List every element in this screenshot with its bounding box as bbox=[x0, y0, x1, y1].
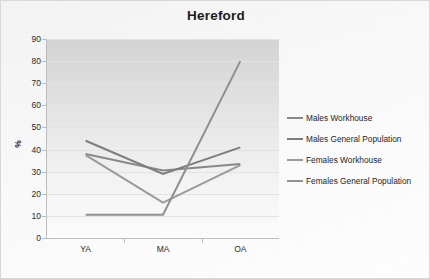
y-axis-tick-mark bbox=[42, 194, 46, 195]
x-axis-tick-mark bbox=[202, 239, 203, 243]
y-axis-tick-mark bbox=[42, 150, 46, 151]
y-axis-tick-label: 10 bbox=[11, 211, 41, 221]
y-axis-tick-mark bbox=[42, 39, 46, 40]
legend-item[interactable]: Males General Population bbox=[287, 130, 429, 148]
y-axis-tick-label: 50 bbox=[11, 122, 41, 132]
y-axis-tick-labels: 9080706050403020100 bbox=[7, 39, 41, 239]
chart-legend: Males WorkhouseMales General PopulationF… bbox=[287, 109, 429, 193]
y-axis-tick-mark bbox=[42, 238, 46, 239]
y-axis-tick-mark bbox=[42, 216, 46, 217]
y-axis-tick-label: 60 bbox=[11, 100, 41, 110]
x-axis-tick-label: OA bbox=[217, 244, 263, 254]
series-line bbox=[86, 154, 241, 171]
x-axis-line bbox=[46, 238, 279, 239]
y-axis-tick-label: 80 bbox=[11, 56, 41, 66]
x-axis-tick-label: MA bbox=[140, 244, 186, 254]
x-axis-tick-label: YA bbox=[63, 244, 109, 254]
legend-item[interactable]: Females Workhouse bbox=[287, 151, 429, 169]
y-axis-tick-mark bbox=[42, 83, 46, 84]
y-axis-tick-mark bbox=[42, 172, 46, 173]
legend-swatch-icon bbox=[287, 138, 303, 140]
y-axis-tick-label: 40 bbox=[11, 145, 41, 155]
series-line bbox=[86, 61, 241, 215]
legend-label: Males General Population bbox=[306, 134, 401, 144]
legend-label: Males Workhouse bbox=[306, 113, 372, 123]
legend-swatch-icon bbox=[287, 180, 303, 182]
chart-container: Hereford % 9080706050403020100 YAMAOA Ma… bbox=[0, 0, 430, 279]
y-axis-tick-label: 20 bbox=[11, 189, 41, 199]
chart-title: Hereford bbox=[1, 8, 430, 23]
y-axis-tick-label: 0 bbox=[11, 233, 41, 243]
legend-label: Females General Population bbox=[306, 176, 411, 186]
x-axis-tick-mark bbox=[124, 239, 125, 243]
y-axis-tick-label: 70 bbox=[11, 78, 41, 88]
y-axis-tick-mark bbox=[42, 105, 46, 106]
y-axis-tick-mark bbox=[42, 127, 46, 128]
legend-item[interactable]: Females General Population bbox=[287, 172, 429, 190]
y-axis-tick-label: 90 bbox=[11, 34, 41, 44]
y-axis-tick-mark bbox=[42, 61, 46, 62]
series-lines bbox=[47, 39, 279, 238]
legend-item[interactable]: Males Workhouse bbox=[287, 109, 429, 127]
legend-swatch-icon bbox=[287, 159, 303, 161]
y-axis-tick-label: 30 bbox=[11, 167, 41, 177]
series-line bbox=[86, 155, 241, 203]
legend-swatch-icon bbox=[287, 117, 303, 119]
legend-label: Females Workhouse bbox=[306, 155, 382, 165]
